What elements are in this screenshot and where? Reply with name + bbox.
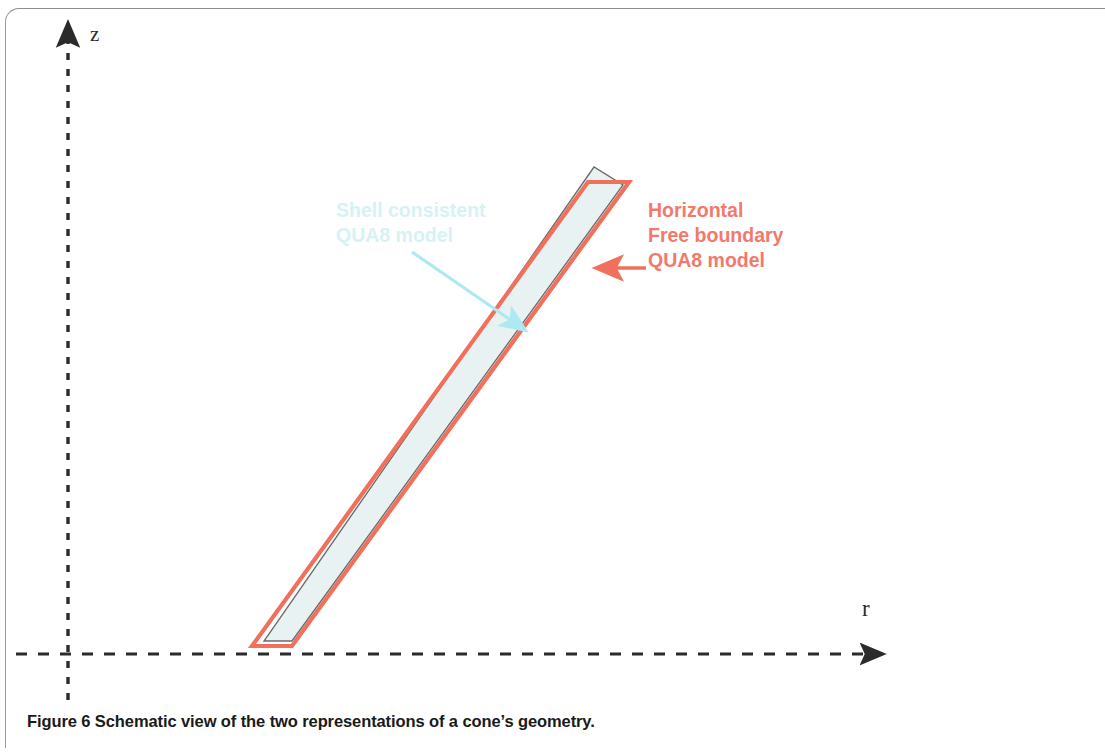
figure-caption: Figure 6 Schematic view of the two repre… (27, 712, 595, 731)
r-axis-label: r (862, 596, 870, 622)
shell-consistent-annotation: Shell consistent QUA8 model (336, 198, 486, 248)
horizontal-free-boundary-annotation: Horizontal Free boundary QUA8 model (648, 198, 783, 273)
z-axis-label: z (90, 22, 99, 47)
axis-group (16, 24, 882, 700)
